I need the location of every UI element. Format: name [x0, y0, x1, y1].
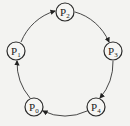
- node-p0: P0: [25, 98, 43, 116]
- node-p3: P3: [104, 42, 122, 60]
- node-p1: P1: [7, 42, 25, 60]
- edge-p4-p0: [43, 111, 87, 116]
- edge-p2-p3: [75, 12, 109, 42]
- node-p4: P4: [87, 98, 105, 116]
- ring-diagram: P0 P1 P2 P3 P4: [0, 0, 130, 126]
- edge-p1-p2: [21, 11, 55, 42]
- edge-p3-p4: [100, 61, 113, 98]
- node-p2: P2: [56, 3, 74, 21]
- edge-p0-p1: [17, 61, 30, 98]
